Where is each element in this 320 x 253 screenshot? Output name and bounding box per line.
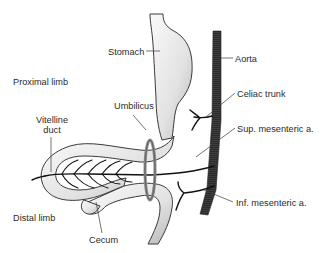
label-aorta: Aorta xyxy=(235,54,258,64)
label-umbilicus: Umbilicus xyxy=(114,101,154,111)
umbilicus-leader xyxy=(133,115,146,130)
label-cecum: Cecum xyxy=(89,235,118,245)
label-inf-mesenteric: Inf. mesenteric a. xyxy=(236,198,306,208)
label-celiac-trunk: Celiac trunk xyxy=(237,89,286,99)
label-stomach: Stomach xyxy=(108,47,144,57)
label-proximal-limb: Proximal limb xyxy=(13,77,68,87)
label-sup-mesenteric: Sup. mesenteric a. xyxy=(237,124,314,134)
stomach xyxy=(150,14,192,140)
label-distal-limb: Distal limb xyxy=(13,213,55,223)
label-vitelline-duct-line1: Vitelline xyxy=(36,115,68,125)
mesenteric-branches xyxy=(45,160,214,188)
label-vitelline-duct-line2: duct xyxy=(43,125,61,135)
celiac-trunk xyxy=(190,110,212,130)
midgut-diagram: Stomach Aorta Proximal limb Umbilicus Ce… xyxy=(0,0,320,253)
